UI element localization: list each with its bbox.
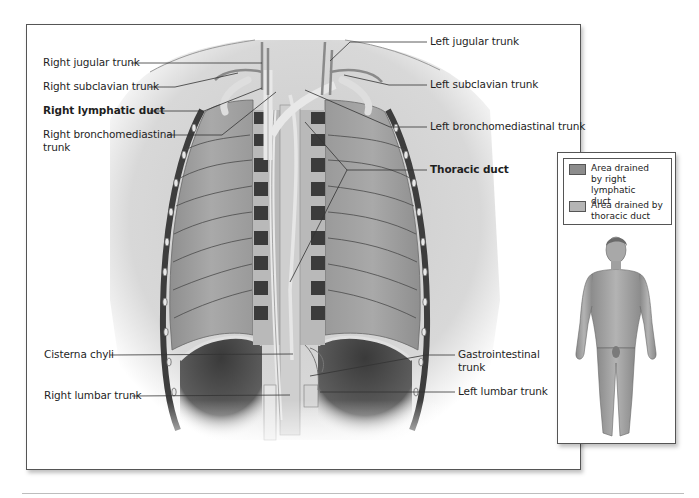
swatch-thoracic <box>569 201 586 212</box>
label-right-lumbar-trunk: Right lumbar trunk <box>44 389 142 402</box>
label-gastrointestinal-trunk: Gastrointestinal trunk <box>458 348 540 374</box>
label-right-subclavian-trunk: Right subclavian trunk <box>43 80 159 93</box>
label-right-jugular-trunk: Right jugular trunk <box>43 56 140 69</box>
legend-item-thoracic: Area drained by thoracic duct <box>569 200 663 222</box>
label-right-bronchomediastinal-trunk: Right bronchomediastinal trunk <box>43 128 176 154</box>
legend-text-thoracic: Area drained by thoracic duct <box>591 200 663 222</box>
label-right-lymphatic-duct: Right lymphatic duct <box>43 104 165 117</box>
drainage-inset: Area drained by right lymphatic duct Are… <box>557 152 676 444</box>
human-body-figure <box>558 228 675 443</box>
label-left-jugular-trunk: Left jugular trunk <box>430 35 519 48</box>
label-left-lumbar-trunk: Left lumbar trunk <box>458 385 548 398</box>
label-cisterna-chyli: Cisterna chyli <box>44 348 114 361</box>
swatch-right-lymphatic <box>569 164 586 175</box>
legend: Area drained by right lymphatic duct Are… <box>563 158 672 225</box>
label-thoracic-duct: Thoracic duct <box>430 163 509 176</box>
label-left-bronchomediastinal-trunk: Left bronchomediastinal trunk <box>430 120 585 133</box>
label-left-subclavian-trunk: Left subclavian trunk <box>430 78 538 91</box>
bottom-rule <box>22 493 684 494</box>
